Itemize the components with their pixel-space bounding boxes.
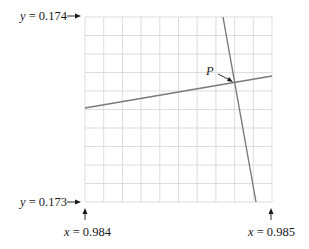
x-right-label: x = 0.985 — [247, 225, 295, 239]
y-top-arrowhead — [75, 14, 81, 19]
y-top-label: y = 0.174 — [18, 9, 68, 23]
x-left-arrowhead — [83, 208, 88, 214]
y-bottom-arrowhead — [75, 200, 81, 205]
point-p-arrowhead — [227, 77, 233, 82]
grid — [85, 17, 272, 202]
x-left-label: x = 0.984 — [63, 225, 112, 239]
x-right-arrowhead — [269, 208, 274, 214]
linear-approximation-figure: P y = 0.174 y = 0.173 x = 0.984 x = 0.98… — [0, 0, 309, 249]
y-bottom-label: y = 0.173 — [18, 195, 67, 209]
point-p-label: P — [205, 64, 214, 78]
